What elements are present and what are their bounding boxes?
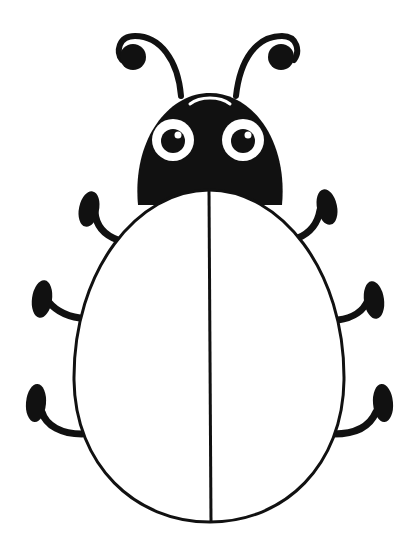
left-middle-leg [29,279,80,319]
right-antenna [236,36,297,96]
right-middle-leg [338,280,387,320]
right-eye [222,119,264,161]
left-front-leg [75,189,118,240]
ladybug-illustration [0,0,416,547]
right-eye-glint [245,132,252,139]
left-eye [152,119,194,161]
right-front-leg [298,187,341,238]
wing-divider [209,190,211,522]
left-eye-glint [175,132,182,139]
left-antenna [119,36,181,96]
